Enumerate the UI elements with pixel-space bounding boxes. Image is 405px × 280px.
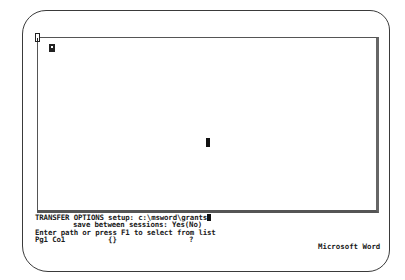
window-number-icon[interactable]: [35, 33, 40, 42]
help-indicator: ?: [189, 236, 193, 243]
app-name: Microsoft Word: [318, 243, 380, 250]
end-of-document-icon: [49, 44, 55, 52]
document-window[interactable]: [37, 37, 379, 213]
page-column-indicator: Pg1 Co1: [35, 236, 65, 243]
text-cursor-icon: [206, 138, 210, 147]
braces-indicator: {}: [108, 236, 117, 243]
input-cursor-icon: [207, 214, 211, 221]
